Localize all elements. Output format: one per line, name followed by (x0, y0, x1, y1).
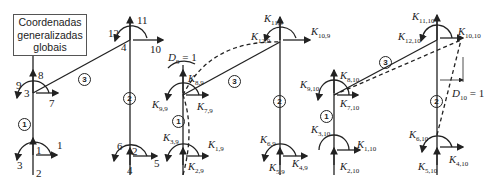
legend-box: Coordenadas generalizadas globais (13, 14, 87, 56)
dof-6-label: 6 (117, 141, 123, 152)
k410-label: K4,10 (449, 155, 468, 168)
dof-5-label: 5 (154, 158, 160, 169)
k69-label: K6,9 (260, 135, 276, 148)
dof-8-label: 8 (38, 70, 44, 81)
k110-label: K1,10 (357, 140, 376, 153)
node-1-label: 1 (36, 145, 42, 156)
k910-label: K9,10 (300, 80, 319, 93)
d10-label: D10 = 1 (452, 88, 484, 102)
member-2-badge-f2: 2 (273, 95, 286, 108)
k1010-label: K10,10 (458, 27, 481, 40)
k119-label: K11,9 (264, 14, 283, 27)
k39-label: K3,9 (163, 133, 179, 146)
legend-line-1: Coordenadas (14, 16, 86, 29)
dof-11-label: 11 (137, 15, 148, 26)
k79-label: K7,9 (197, 102, 213, 115)
dof-12-label: 12 (108, 28, 119, 39)
member-3-badge: 3 (78, 73, 91, 86)
member-1-badge: 1 (18, 118, 31, 131)
k49-label: K4,9 (292, 159, 308, 172)
legend-line-2: generalizadas (14, 29, 86, 42)
node-2-label: 2 (132, 146, 138, 157)
node-4-label: 4 (121, 42, 127, 53)
member-2-badge: 2 (123, 92, 136, 105)
legend-line-3: globais (14, 41, 86, 54)
dof-9-label: 9 (16, 80, 22, 91)
k99-label: K9,9 (152, 100, 168, 113)
k89-label: K8,9 (188, 74, 204, 87)
k310-label: K3,10 (311, 125, 330, 138)
k129-label: K12,9 (251, 32, 270, 45)
k810-label: K8,10 (340, 71, 359, 84)
dof-7-label: 7 (49, 98, 55, 109)
k710-label: K7,10 (340, 99, 359, 112)
k59-label: K5,9 (269, 163, 285, 176)
k210-label: K2,10 (340, 162, 359, 175)
k109-label: K10,9 (311, 27, 330, 40)
d9-label: D9 = 1 (168, 52, 197, 66)
dof-1-label: 1 (57, 140, 63, 151)
member-3-badge-f2: 3 (228, 75, 241, 88)
member-3-badge-f3: 3 (379, 56, 392, 69)
frame-stiffness-diagram: Coordenadas generalizadas globais 1 2 3 … (0, 0, 494, 185)
dof-10-label: 10 (150, 44, 161, 55)
dof-2-label: 2 (36, 168, 42, 179)
k19-label: K1,9 (208, 140, 224, 153)
member-1-badge-f3: 1 (320, 110, 333, 123)
k29-label: K2,9 (188, 162, 204, 175)
k1110-label: K11,10 (412, 12, 435, 25)
k610-label: K6,10 (409, 130, 428, 143)
k510-label: K5,10 (418, 162, 437, 175)
member-1-badge-f2: 1 (172, 115, 185, 128)
member-2-badge-f3: 2 (430, 95, 443, 108)
dof-4-label: 4 (127, 165, 133, 176)
k1210-label: K12,10 (398, 32, 421, 45)
dof-3-label: 3 (17, 160, 23, 171)
node-3-label: 3 (24, 88, 30, 99)
